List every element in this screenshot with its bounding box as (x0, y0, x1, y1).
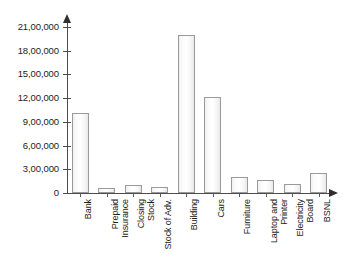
x-axis-tick (160, 193, 161, 197)
bar (72, 113, 89, 193)
bar (284, 184, 301, 193)
bar-chart: 21,00,00018,00,00015,00,00012,00,0009,00… (0, 0, 350, 270)
y-axis-tick (63, 193, 71, 194)
x-axis-tick (292, 193, 293, 197)
y-axis-tick-label: 15,00,000 (18, 69, 59, 79)
bar (204, 97, 221, 193)
x-axis-tick (266, 193, 267, 197)
x-axis-tick (133, 193, 134, 197)
bar (178, 35, 195, 193)
x-axis-tick (80, 193, 81, 197)
y-axis-tick-label: 18,00,000 (18, 46, 59, 56)
x-axis-category-label: BSNL (323, 199, 333, 270)
bar (125, 185, 142, 193)
y-axis-tick-label: 0 (54, 188, 59, 198)
x-axis-tick (239, 193, 240, 197)
x-axis-category-label: Laptop and Printer (270, 199, 289, 270)
bar (257, 180, 274, 193)
y-axis-arrow-icon (63, 14, 71, 23)
y-axis-tick-label: 12,00,000 (18, 93, 59, 103)
x-axis-tick (213, 193, 214, 197)
x-axis-category-label: Closing Stock (137, 199, 156, 270)
bar (310, 173, 327, 193)
x-axis-tick (107, 193, 108, 197)
x-axis-category-label: Cars (217, 199, 227, 270)
x-axis-category-label: Furniture (243, 199, 253, 270)
x-axis-tick (186, 193, 187, 197)
x-axis-category-label: Electricity Board (296, 199, 315, 270)
y-axis-tick-label: 21,00,000 (18, 22, 59, 32)
y-axis-tick-label: 3,00,000 (23, 164, 59, 174)
bar (231, 177, 248, 193)
y-axis-tick-label: 9,00,000 (23, 117, 59, 127)
x-axis-category-label: Stock of Adv. (164, 199, 174, 270)
x-axis-category-label: Prepaid Insurance (111, 199, 130, 270)
x-axis-category-label: Bank (84, 199, 94, 270)
x-axis-category-label: Building (190, 199, 200, 270)
plot-area (67, 27, 332, 193)
x-axis-tick (319, 193, 320, 197)
y-axis-tick-label: 6,00,000 (23, 141, 59, 151)
